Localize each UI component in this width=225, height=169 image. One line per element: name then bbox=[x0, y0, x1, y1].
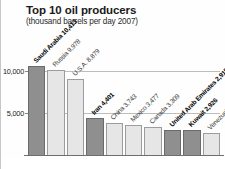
bar-slot: Saudi Arabia 10,413 bbox=[28, 57, 45, 155]
bar-slot: Kuwait 2,926 bbox=[183, 57, 200, 155]
plot-area: 10,0005,000 Saudi Arabia 10,413Russia 9,… bbox=[28, 58, 220, 156]
bar[interactable] bbox=[67, 79, 84, 155]
bar-slot: United Arab Emirates 2,915 bbox=[164, 57, 181, 155]
bar-data-label: Venezuela 2,613 bbox=[206, 93, 225, 131]
y-axis-tick-label: 5,000 bbox=[7, 109, 24, 118]
bar-slot: China 3,743 bbox=[106, 57, 123, 155]
page-title: Top 10 oil producers bbox=[26, 4, 216, 17]
bar[interactable] bbox=[106, 123, 123, 155]
bar-series: Saudi Arabia 10,413Russia 9,978U.S.A. 8,… bbox=[28, 57, 220, 155]
bar-slot: Russia 9,978 bbox=[47, 57, 64, 155]
chart-frame: Top 10 oil producers (thousand barrels p… bbox=[0, 0, 225, 169]
bar[interactable] bbox=[86, 118, 103, 156]
y-axis-tick-label: 10,000 bbox=[3, 66, 24, 75]
bar-slot: Mexico 3,477 bbox=[125, 57, 142, 155]
title-block: Top 10 oil producers (thousand barrels p… bbox=[26, 4, 216, 27]
chart-subtitle: (thousand barrels per day 2007) bbox=[26, 17, 216, 27]
chart-footer-strip bbox=[1, 158, 225, 169]
bar-slot: U.S.A. 8,879 bbox=[67, 57, 84, 155]
bar[interactable] bbox=[203, 133, 220, 155]
bar[interactable] bbox=[144, 127, 161, 155]
bar-slot: Canada 3,309 bbox=[144, 57, 161, 155]
bar[interactable] bbox=[28, 66, 45, 155]
bar-slot: Venezuela 2,613 bbox=[203, 57, 220, 155]
bar[interactable] bbox=[47, 70, 64, 155]
bar[interactable] bbox=[183, 130, 200, 155]
bar[interactable] bbox=[164, 130, 181, 155]
bar[interactable] bbox=[125, 125, 142, 155]
x-axis-line bbox=[24, 155, 224, 156]
bar-slot: Iran 4,401 bbox=[86, 57, 103, 155]
